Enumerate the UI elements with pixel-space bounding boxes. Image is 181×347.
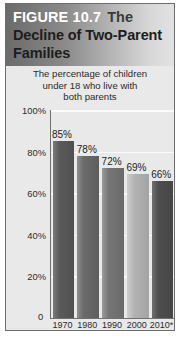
bar-label-2000: 69% xyxy=(126,162,146,173)
y-axis-tick-60: 60% xyxy=(6,188,46,199)
subtitle-line-1: The percentage of children xyxy=(6,68,174,80)
bar-slot-2010*: 66% xyxy=(150,110,175,318)
figure-header: FIGURE 10.7The Decline of Two-Parent Fam… xyxy=(6,4,174,66)
figure-title-line-1: FIGURE 10.7The xyxy=(13,8,168,26)
figure-title-the: The xyxy=(101,9,133,25)
bar-2010*[interactable] xyxy=(152,181,174,318)
bar-slot-1980: 78% xyxy=(76,110,101,318)
figure-title-line-2: Decline of Two-Parent xyxy=(13,26,168,44)
bar-chart: 0 85%78%72%69%66% 100%80%60%40%20%197019… xyxy=(6,104,174,331)
subtitle-line-2: under 18 who live with xyxy=(6,80,174,92)
bar-2000[interactable] xyxy=(127,174,149,318)
y-axis-tick-20: 20% xyxy=(6,271,46,282)
bar-label-1970: 85% xyxy=(52,129,72,140)
bar-slot-1990: 72% xyxy=(101,110,126,318)
figure-title-line-3: Families xyxy=(13,44,168,62)
bar-slot-1970: 85% xyxy=(51,110,76,318)
y-axis-tick-100: 100% xyxy=(6,105,46,116)
bar-label-1990: 72% xyxy=(102,156,122,167)
plot-area: 85%78%72%69%66% xyxy=(50,110,175,319)
bar-slot-2000: 69% xyxy=(125,110,150,318)
y-axis-tick-40: 40% xyxy=(6,229,46,240)
subtitle-line-3: both parents xyxy=(6,91,174,103)
x-axis-tick-2010*: 2010* xyxy=(146,320,175,330)
figure-subtitle: The percentage of children under 18 who … xyxy=(6,68,174,103)
bar-1970[interactable] xyxy=(53,141,75,318)
bar-1980[interactable] xyxy=(77,156,99,318)
figure-number: FIGURE 10.7 xyxy=(13,9,101,25)
bar-label-2010*: 66% xyxy=(151,169,171,180)
figure-container: FIGURE 10.7The Decline of Two-Parent Fam… xyxy=(5,3,175,331)
bar-series: 85%78%72%69%66% xyxy=(51,110,175,318)
y-axis-tick-0: 0 xyxy=(38,311,43,322)
bar-label-1980: 78% xyxy=(77,144,97,155)
y-axis-tick-80: 80% xyxy=(6,146,46,157)
bar-1990[interactable] xyxy=(102,168,124,318)
